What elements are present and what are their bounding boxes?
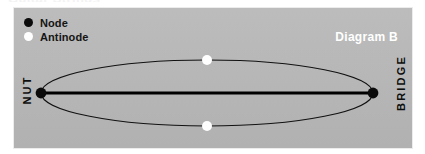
end-label-bridge: BRIDGE (395, 51, 407, 115)
antinode-dot-icon (24, 32, 33, 41)
screenshot-root: Guitar Strings Node Antinode (0, 0, 425, 154)
legend-label-antinode: Antinode (40, 31, 88, 43)
legend: Node Antinode (24, 16, 88, 44)
diagram-caption: Diagram B (335, 30, 398, 44)
end-label-nut: NUT (21, 68, 33, 112)
antinode-top-marker (202, 55, 212, 65)
node-right-marker (368, 88, 379, 99)
antinode-bottom-marker (202, 121, 212, 131)
diagram-panel: Node Antinode Diagram B NUT BRIDGE (14, 8, 412, 148)
node-dot-icon (24, 18, 33, 27)
clipped-page-heading: Guitar Strings (8, 0, 188, 2)
node-left-marker (36, 88, 47, 99)
legend-item-node: Node (24, 16, 88, 29)
legend-item-antinode: Antinode (24, 30, 88, 43)
legend-label-node: Node (40, 17, 68, 29)
